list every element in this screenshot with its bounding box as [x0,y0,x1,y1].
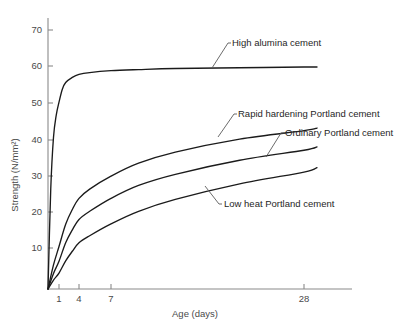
series-annotations-group: High alumina cementRapid hardening Portl… [205,37,394,209]
y-tick-label-20: 20 [31,206,42,217]
y-tick-label-70: 70 [31,24,42,35]
annotation-leader-1 [218,114,237,137]
y-tick-label-10: 10 [31,242,42,253]
annotation-label-0: High alumina cement [232,37,322,48]
annotation-label-1: Rapid hardening Portland cement [238,108,380,119]
series-curves-group [48,67,317,289]
y-axis-title: Strength (N/mm²) [9,138,20,211]
x-tick-label-28: 28 [299,293,310,304]
annotation-label-3: Low heat Portland cement [224,198,335,209]
x-tick-label-7: 7 [108,293,113,304]
chart-canvas: 10 20 30 40 50 60 70 1 4 7 28 Age (days)… [0,0,409,326]
x-axis-title: Age (days) [172,308,218,319]
y-tick-label-50: 50 [31,97,42,108]
annotation-leader-0 [212,43,231,68]
x-tick-label-1: 1 [56,293,61,304]
y-tick-label-60: 60 [31,60,42,71]
series-curve-0 [48,67,317,289]
cement-strength-chart-figure: 10 20 30 40 50 60 70 1 4 7 28 Age (days)… [0,0,409,326]
series-curve-2 [48,147,317,289]
x-tick-label-4: 4 [76,293,81,304]
y-tick-label-30: 30 [31,170,42,181]
y-tick-label-40: 40 [31,134,42,145]
annotation-label-2: Ordinary Portland cement [285,127,394,138]
series-curve-3 [48,168,317,289]
x-axis-ticks [59,284,304,289]
